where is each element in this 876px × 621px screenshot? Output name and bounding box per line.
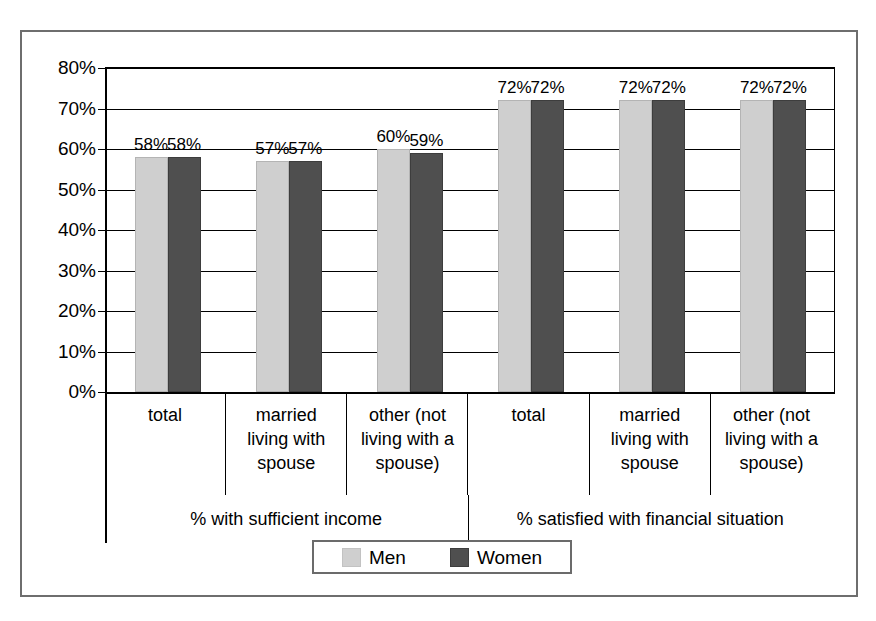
y-axis-label-80: 80% <box>26 58 96 77</box>
legend-label-women: Women <box>477 548 542 567</box>
category-label-0: total <box>105 403 225 427</box>
plot-area: 58%57%60%72%72%72%58%57%59%72%72%72% <box>105 67 835 394</box>
category-label-1: marriedliving withspouse <box>226 403 346 475</box>
y-axis-label-10: 10% <box>26 342 96 361</box>
bar-men-2 <box>377 149 410 392</box>
y-axis-label-60: 60% <box>26 139 96 158</box>
y-tick-80 <box>98 68 107 69</box>
legend-swatch-men-icon <box>342 548 361 567</box>
y-tick-40 <box>98 230 107 231</box>
bar-men-1 <box>256 161 289 392</box>
y-axis-label-0: 0% <box>26 382 96 401</box>
group-axis-band: % with sufficient income% satisfied with… <box>105 495 834 543</box>
y-axis-label-70: 70% <box>26 99 96 118</box>
y-axis-label-40: 40% <box>26 220 96 239</box>
category-cell-2: other (notliving with aspouse) <box>347 393 468 495</box>
y-axis-labels: 80%70%60%50%40%30%20%10%0% <box>22 67 96 391</box>
category-cell-3: total <box>469 393 590 495</box>
bar-value-label-women-3: 72% <box>527 79 568 96</box>
y-tick-50 <box>98 190 107 191</box>
category-label-4: marriedliving withspouse <box>590 403 710 475</box>
group-cell-1: % satisfied with financial situation <box>469 495 833 543</box>
chart-figure: 80%70%60%50%40%30%20%10%0% 58%57%60%72%7… <box>20 30 858 597</box>
bars-layer: 58%57%60%72%72%72%58%57%59%72%72%72% <box>107 68 834 392</box>
bar-women-0 <box>168 157 201 392</box>
y-axis-label-30: 30% <box>26 261 96 280</box>
group-label-0: % with sufficient income <box>190 508 382 530</box>
legend-label-men: Men <box>369 548 406 567</box>
group-label-1: % satisfied with financial situation <box>517 508 784 530</box>
y-tick-20 <box>98 311 107 312</box>
y-tick-60 <box>98 149 107 150</box>
bar-men-5 <box>740 100 773 392</box>
bar-value-label-women-2: 59% <box>406 132 447 149</box>
y-tick-30 <box>98 271 107 272</box>
y-axis-label-50: 50% <box>26 180 96 199</box>
bar-value-label-women-1: 57% <box>285 140 326 157</box>
group-cell-0: % with sufficient income <box>105 495 469 543</box>
bar-men-3 <box>498 100 531 392</box>
legend-swatch-women-icon <box>450 548 469 567</box>
bar-women-3 <box>531 100 564 392</box>
y-tick-70 <box>98 109 107 110</box>
bar-men-4 <box>619 100 652 392</box>
chart-legend: Men Women <box>312 540 572 574</box>
category-cell-0: total <box>105 393 226 495</box>
category-label-3: total <box>469 403 589 427</box>
category-axis-band: totalmarriedliving withspouseother (notl… <box>105 393 834 495</box>
bar-men-0 <box>135 157 168 392</box>
category-cell-1: marriedliving withspouse <box>226 393 347 495</box>
legend-item-men: Men <box>342 548 406 567</box>
legend-item-women: Women <box>450 548 542 567</box>
bar-women-5 <box>773 100 806 392</box>
y-tick-10 <box>98 352 107 353</box>
y-axis-label-20: 20% <box>26 301 96 320</box>
bar-women-1 <box>289 161 322 392</box>
category-label-5: other (notliving with aspouse) <box>711 403 832 475</box>
bar-value-label-women-4: 72% <box>648 79 689 96</box>
category-label-2: other (notliving with aspouse) <box>347 403 467 475</box>
category-cell-5: other (notliving with aspouse) <box>711 393 832 495</box>
bar-value-label-women-5: 72% <box>769 79 810 96</box>
bar-value-label-women-0: 58% <box>164 136 205 153</box>
bar-women-2 <box>410 153 443 392</box>
category-cell-4: marriedliving withspouse <box>590 393 711 495</box>
bar-women-4 <box>652 100 685 392</box>
